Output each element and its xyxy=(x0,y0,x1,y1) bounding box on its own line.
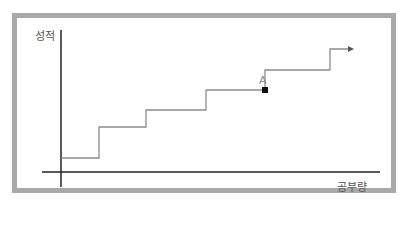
arrowhead-icon xyxy=(348,46,354,52)
point-a-marker xyxy=(262,87,268,93)
step-line xyxy=(61,49,348,158)
point-a-label: A xyxy=(259,74,267,87)
x-axis-label: 공부량 xyxy=(337,178,367,194)
y-axis-label: 성적 xyxy=(35,27,55,43)
